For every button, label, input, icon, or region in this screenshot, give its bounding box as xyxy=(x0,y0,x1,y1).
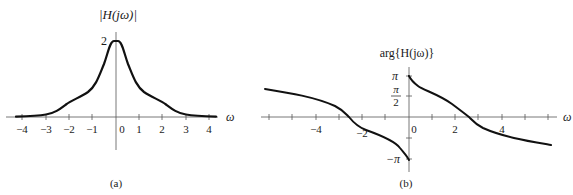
x-tick-labels: −4 −3 −2 −1 0 1 2 3 4 xyxy=(16,123,212,135)
x-tick-label: 1 xyxy=(136,123,142,135)
panel-a-magnitude-plot: −4 −3 −2 −1 0 1 2 3 4 2 |H(jω)| ω (a) xyxy=(6,7,234,190)
phase-curve-positive-freq xyxy=(409,76,551,145)
caption-b: (b) xyxy=(400,177,413,190)
y-tick-label-pi: π xyxy=(392,69,399,83)
x-tick-label: 4 xyxy=(206,123,212,135)
figure: −4 −3 −2 −1 0 1 2 3 4 2 |H(jω)| ω (a) xyxy=(0,0,573,195)
x-tick-label: 2 xyxy=(159,123,165,135)
x-tick-label: 0 xyxy=(411,123,417,135)
y-axis-label: arg{H(jω)} xyxy=(380,46,435,60)
x-tick-label: −2 xyxy=(63,123,75,135)
x-axis-label: ω xyxy=(226,110,234,124)
x-tick-labels: −4 −2 0 2 4 xyxy=(310,123,505,139)
x-tick-label: −3 xyxy=(40,123,52,135)
phase-curve-negative-freq xyxy=(265,89,409,160)
peak-value-label: 2 xyxy=(101,34,107,48)
x-axis-label: ω xyxy=(563,110,571,124)
x-tick-label: −4 xyxy=(16,123,28,135)
y-tick-label-pi-half-numerator: π xyxy=(393,83,399,95)
x-tick-label: 0 xyxy=(119,123,125,135)
y-tick-label-neg-pi: −π xyxy=(386,152,401,166)
x-tick-label: 3 xyxy=(183,123,189,135)
caption-a: (a) xyxy=(110,177,123,190)
x-tick-label: 4 xyxy=(499,123,505,135)
y-tick-label-pi-half-denominator: 2 xyxy=(393,96,399,108)
panel-b-phase-plot: −4 −2 0 2 4 π π 2 −π arg{H(jω)} ω (b) xyxy=(261,46,571,190)
x-tick-label: 2 xyxy=(452,123,458,135)
x-tick-label: −1 xyxy=(86,123,98,135)
y-axis-label: |H(jω)| xyxy=(99,7,137,22)
x-tick-label: −4 xyxy=(310,123,322,135)
